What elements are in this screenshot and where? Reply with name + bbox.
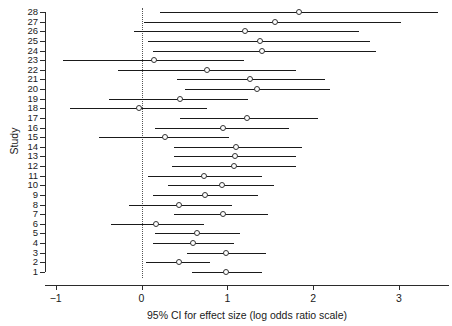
ci-row bbox=[0, 66, 452, 75]
effect-estimate-marker bbox=[259, 48, 265, 54]
ci-row bbox=[0, 104, 452, 113]
effect-estimate-marker bbox=[220, 125, 226, 131]
effect-estimate-marker bbox=[244, 115, 250, 121]
ci-row bbox=[0, 268, 452, 277]
ci-row bbox=[0, 133, 452, 142]
ci-row bbox=[0, 152, 452, 161]
effect-estimate-marker bbox=[223, 250, 229, 256]
ci-row bbox=[0, 18, 452, 27]
effect-estimate-marker bbox=[202, 192, 208, 198]
effect-estimate-marker bbox=[194, 230, 200, 236]
ci-row bbox=[0, 220, 452, 229]
effect-estimate-marker bbox=[231, 163, 237, 169]
x-axis-tick bbox=[227, 285, 228, 290]
ci-row bbox=[0, 47, 452, 56]
x-axis-tick bbox=[142, 285, 143, 290]
ci-row bbox=[0, 191, 452, 200]
effect-estimate-marker bbox=[220, 211, 226, 217]
ci-row bbox=[0, 85, 452, 94]
ci-row bbox=[0, 249, 452, 258]
ci-row bbox=[0, 114, 452, 123]
effect-estimate-marker bbox=[257, 38, 263, 44]
effect-estimate-marker bbox=[219, 182, 225, 188]
forest-plot: Study 1234567891011121314151617181920212… bbox=[0, 0, 452, 326]
ci-row bbox=[0, 162, 452, 171]
x-axis-spine bbox=[45, 285, 449, 286]
x-axis-tick-label: 3 bbox=[384, 292, 414, 304]
effect-estimate-marker bbox=[272, 19, 278, 25]
effect-estimate-marker bbox=[190, 240, 196, 246]
effect-estimate-marker bbox=[223, 269, 229, 275]
effect-estimate-marker bbox=[247, 76, 253, 82]
effect-estimate-marker bbox=[177, 96, 183, 102]
effect-estimate-marker bbox=[232, 153, 238, 159]
effect-estimate-marker bbox=[201, 173, 207, 179]
ci-row bbox=[0, 229, 452, 238]
ci-row bbox=[0, 37, 452, 46]
effect-estimate-marker bbox=[162, 134, 168, 140]
ci-row bbox=[0, 56, 452, 65]
ci-row bbox=[0, 27, 452, 36]
ci-row bbox=[0, 239, 452, 248]
effect-estimate-marker bbox=[296, 9, 302, 15]
effect-estimate-marker bbox=[153, 221, 159, 227]
ci-row bbox=[0, 95, 452, 104]
effect-estimate-marker bbox=[176, 202, 182, 208]
ci-row bbox=[0, 201, 452, 210]
x-axis-label: 95% CI for effect size (log odds ratio s… bbox=[45, 309, 449, 321]
effect-estimate-marker bbox=[242, 28, 248, 34]
x-axis-tick-label: 0 bbox=[127, 292, 157, 304]
x-axis-tick bbox=[56, 285, 57, 290]
ci-row bbox=[0, 172, 452, 181]
x-axis-tick-label: 2 bbox=[298, 292, 328, 304]
x-axis-tick-label: 1 bbox=[212, 292, 242, 304]
effect-estimate-marker bbox=[176, 259, 182, 265]
ci-row bbox=[0, 210, 452, 219]
effect-estimate-marker bbox=[254, 86, 260, 92]
ci-row bbox=[0, 8, 452, 17]
effect-estimate-marker bbox=[136, 105, 142, 111]
effect-estimate-marker bbox=[233, 144, 239, 150]
x-axis-tick bbox=[313, 285, 314, 290]
ci-row bbox=[0, 143, 452, 152]
ci-row bbox=[0, 181, 452, 190]
ci-row bbox=[0, 258, 452, 267]
effect-estimate-marker bbox=[204, 67, 210, 73]
plot-area: Study 1234567891011121314151617181920212… bbox=[0, 0, 452, 326]
ci-row bbox=[0, 124, 452, 133]
x-axis-tick bbox=[399, 285, 400, 290]
effect-estimate-marker bbox=[151, 57, 157, 63]
x-axis-tick-label: −1 bbox=[41, 292, 71, 304]
ci-row bbox=[0, 75, 452, 84]
